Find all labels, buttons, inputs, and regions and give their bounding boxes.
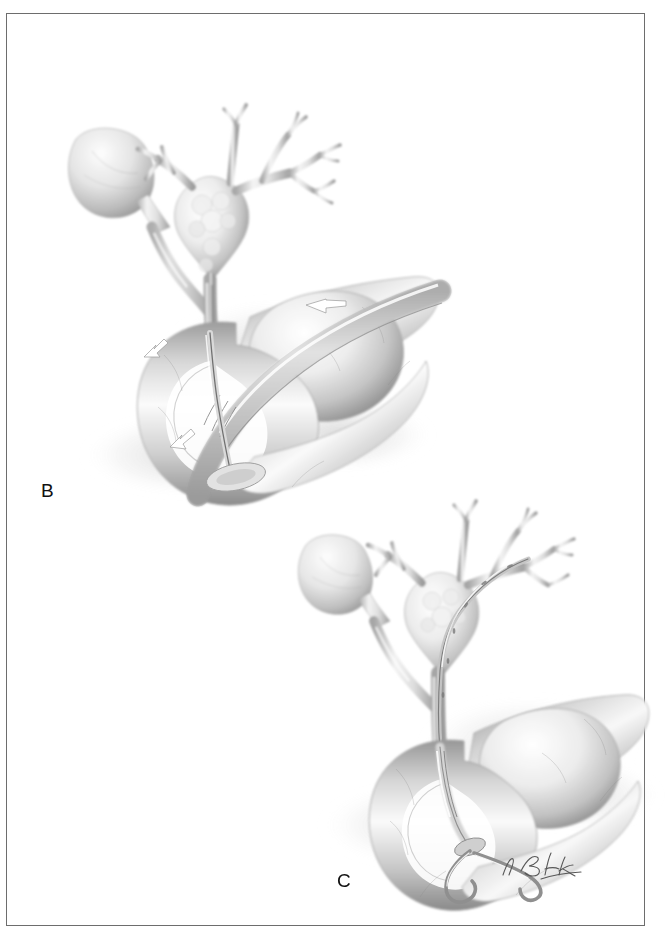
panel-c-right-hepatic-ducts [454, 501, 574, 585]
panel-b-illustration [40, 55, 440, 505]
panel-label-b: B [41, 481, 54, 500]
artist-signature: T. Bick [497, 845, 587, 887]
panel-b-right-hepatic-ducts [224, 105, 340, 203]
panel-c-left-hepatic-ducts [368, 543, 422, 583]
panel-c-illustration [278, 495, 658, 905]
panel-label-c: C [337, 871, 351, 890]
figure-root: B C T. Bick [0, 0, 669, 947]
panel-b-gallbladder [68, 128, 170, 233]
